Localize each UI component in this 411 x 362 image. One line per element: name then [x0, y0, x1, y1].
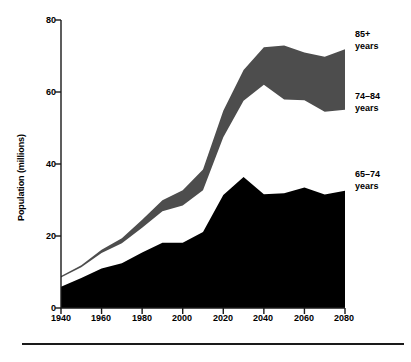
plot-area — [0, 0, 411, 362]
footer-rule — [22, 343, 404, 345]
population-projection-area-chart: Population (millions) 0 20 40 60 80 1940… — [0, 0, 411, 362]
stacked-areas — [61, 46, 345, 308]
area-65-74-band — [61, 177, 345, 308]
